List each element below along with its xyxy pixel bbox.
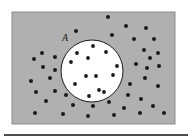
outcome-dot [110, 33, 114, 37]
outcome-dot [111, 73, 115, 77]
outcome-dot [126, 93, 130, 97]
outcome-dot [124, 24, 128, 28]
outcome-dot [122, 106, 126, 110]
outcome-dot [91, 44, 95, 48]
outcome-dot [142, 48, 146, 52]
outcome-dot [132, 37, 136, 41]
outcome-dot [157, 64, 161, 68]
bottom-divider-rule [4, 134, 188, 136]
outcome-dot [94, 74, 98, 78]
outcome-dot [71, 103, 75, 107]
outcome-dot [156, 84, 160, 88]
venn-region-diagram: A [0, 0, 188, 140]
outcome-dot [86, 56, 90, 60]
outcome-dot [86, 114, 90, 118]
outcome-dot [139, 97, 143, 101]
outcome-dot [33, 111, 37, 115]
outcome-dot [87, 94, 91, 98]
outcome-dot [34, 90, 38, 94]
outcome-dot [32, 57, 36, 61]
figure-container: A [0, 0, 188, 140]
outcome-dot [156, 51, 160, 55]
region-label-a: A [61, 32, 69, 43]
outcome-dot [53, 89, 57, 93]
outcome-dot [162, 111, 166, 115]
outcome-dot [48, 76, 52, 80]
outcome-dot [84, 74, 88, 78]
outcome-dot [107, 100, 111, 104]
outcome-dot [104, 50, 108, 54]
outcome-dot [145, 66, 149, 70]
outcome-dot [152, 37, 156, 41]
outcome-dot [61, 112, 65, 116]
outcome-dot [144, 26, 148, 30]
outcome-dot [53, 68, 57, 72]
outcome-dot [97, 88, 101, 92]
outcome-dot [75, 51, 79, 55]
outcome-dot [115, 64, 119, 68]
outcome-dot [91, 104, 95, 108]
outcome-dot [29, 79, 33, 83]
outcome-dot [112, 113, 116, 117]
outcome-dot [106, 15, 110, 19]
outcome-dot [143, 76, 147, 80]
outcome-dot [102, 90, 106, 94]
outcome-dot [73, 82, 77, 86]
outcome-dot [74, 29, 78, 33]
outcome-dot [53, 55, 57, 59]
outcome-dot [69, 60, 73, 64]
outcome-dot [64, 93, 68, 97]
outcome-dot [41, 65, 45, 69]
outcome-dot [40, 51, 44, 55]
outcome-dot [44, 99, 48, 103]
outcome-dot [148, 56, 152, 60]
event-circle-shape [61, 40, 123, 102]
event-circle [61, 40, 123, 102]
outcome-dot [151, 104, 155, 108]
outcome-dot [128, 82, 132, 86]
outcome-dot [134, 62, 138, 66]
outcome-dot [138, 111, 142, 115]
